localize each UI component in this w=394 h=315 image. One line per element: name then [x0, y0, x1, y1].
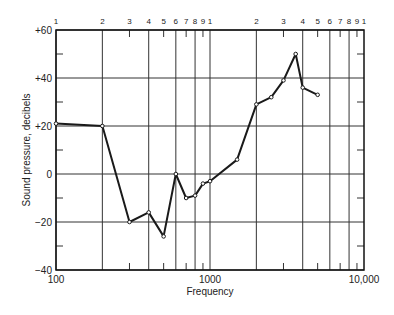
top-cycle-label: 5: [315, 17, 320, 26]
data-point: [184, 196, 188, 200]
x-axis-label: Frequency: [186, 286, 233, 297]
top-cycle-label: 6: [174, 17, 179, 26]
data-line: [56, 54, 318, 236]
data-point: [294, 52, 298, 56]
top-cycle-label: 1: [362, 17, 367, 26]
data-point: [147, 211, 151, 215]
top-cycle-label: 3: [281, 17, 286, 26]
top-cycle-label: 8: [193, 17, 198, 26]
y-axis-label: Sound pressure, decibels: [21, 94, 32, 207]
top-cycle-label: 7: [184, 17, 189, 26]
data-point: [193, 194, 197, 198]
y-tick-label: +60: [35, 25, 52, 36]
data-point: [101, 124, 105, 128]
data-series: [54, 52, 319, 238]
top-cycle-label: 7: [338, 17, 343, 26]
data-point: [269, 95, 273, 99]
top-cycle-label: 4: [146, 17, 151, 26]
data-point: [201, 182, 205, 186]
top-cycle-label: 2: [254, 17, 259, 26]
data-point: [128, 220, 132, 224]
frequency-response-chart: 1234567891234567891100100010,000+60+40+2…: [0, 0, 394, 315]
x-tick-label: 10,000: [349, 274, 380, 285]
top-cycle-label: 2: [100, 17, 105, 26]
y-tick-label: 0: [46, 169, 52, 180]
top-cycle-label: 6: [328, 17, 333, 26]
y-tick-label: +20: [35, 121, 52, 132]
top-cycle-label: 5: [161, 17, 166, 26]
top-cycle-label: 8: [347, 17, 352, 26]
top-cycle-label: 1: [208, 17, 213, 26]
data-point: [255, 103, 259, 107]
top-cycle-label: 1: [54, 17, 59, 26]
data-point: [162, 235, 166, 239]
data-point: [54, 122, 58, 126]
top-cycle-label: 4: [300, 17, 305, 26]
data-point: [301, 86, 305, 90]
top-cycle-label: 9: [201, 17, 206, 26]
y-tick-label: +40: [35, 73, 52, 84]
data-point: [282, 79, 286, 83]
data-point: [235, 158, 239, 162]
data-point: [208, 179, 212, 183]
data-point: [316, 93, 320, 97]
top-cycle-label: 9: [355, 17, 360, 26]
x-tick-label: 1000: [199, 274, 222, 285]
y-tick-label: −20: [35, 217, 52, 228]
y-tick-label: −40: [35, 265, 52, 276]
tick-labels: 1234567891234567891100100010,000+60+40+2…: [35, 17, 380, 285]
top-cycle-label: 3: [127, 17, 132, 26]
data-point: [174, 172, 178, 176]
grid: [56, 30, 364, 270]
